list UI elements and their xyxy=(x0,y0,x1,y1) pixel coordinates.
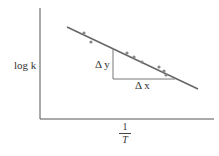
chart-canvas xyxy=(0,0,219,156)
y-axis-label: log k xyxy=(14,59,36,71)
x-axis-label: 1 T xyxy=(119,122,131,145)
delta-x-label: Δ x xyxy=(135,79,150,91)
x-label-denominator: T xyxy=(119,135,131,145)
x-label-numerator: 1 xyxy=(119,122,131,132)
fit-line xyxy=(67,27,198,89)
delta-y-label: Δ y xyxy=(95,58,110,70)
